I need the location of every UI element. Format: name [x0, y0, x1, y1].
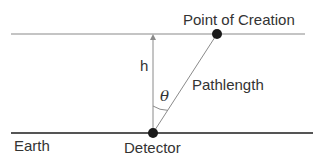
angle-label: θ: [160, 87, 169, 105]
pathlength-label: Pathlength: [192, 76, 264, 93]
pathlength-diagram: Point of Creation h θ Pathlength Earth D…: [0, 0, 325, 165]
point-of-creation-label: Point of Creation: [183, 11, 295, 28]
angle-arc: [153, 106, 168, 110]
detector-label: Detector: [124, 139, 181, 156]
creation-point-dot: [212, 29, 222, 39]
earth-label: Earth: [14, 137, 50, 154]
height-label: h: [140, 57, 148, 74]
detector-point-dot: [148, 128, 158, 138]
